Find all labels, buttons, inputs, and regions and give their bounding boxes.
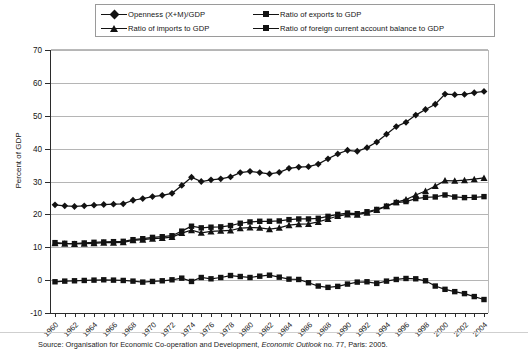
data-point	[257, 219, 262, 224]
x-axis-tick	[474, 313, 475, 317]
data-point	[277, 218, 282, 223]
x-axis-tick	[250, 313, 251, 317]
data-point	[432, 183, 439, 190]
x-axis-tick	[279, 313, 280, 317]
legend-label-balance: Ratio of foreign current account balance…	[280, 24, 444, 33]
data-point	[462, 195, 467, 200]
data-point	[276, 169, 283, 176]
data-point	[296, 277, 301, 282]
data-point	[199, 275, 204, 280]
x-axis-tick	[65, 313, 66, 317]
x-axis-tick	[153, 313, 154, 317]
x-axis-tick	[318, 313, 319, 317]
source-suffix: no. 77, Paris: 2005.	[321, 340, 387, 349]
data-point	[110, 201, 117, 208]
data-point	[277, 274, 282, 279]
data-point	[52, 201, 59, 208]
data-point	[354, 148, 361, 155]
data-point	[335, 284, 340, 289]
data-point	[247, 219, 252, 224]
data-point	[286, 165, 293, 172]
legend-entry-imports: Ratio of imports to GDP	[100, 21, 252, 35]
data-point	[247, 168, 254, 175]
data-point	[228, 273, 233, 278]
data-point	[247, 275, 252, 280]
x-axis-tick	[55, 313, 56, 317]
x-axis-tick	[484, 313, 485, 317]
data-point	[452, 194, 457, 199]
y-axis-tick-label: 60	[33, 78, 42, 87]
x-axis-tick	[406, 313, 407, 317]
data-point	[256, 169, 263, 176]
x-axis-tick	[104, 313, 105, 317]
square-marker-icon	[252, 22, 280, 34]
x-axis-tick	[192, 313, 193, 317]
data-point	[62, 278, 67, 283]
data-point	[179, 275, 184, 280]
data-point	[111, 277, 116, 282]
data-point	[423, 278, 428, 283]
x-axis-tick	[367, 313, 368, 317]
data-point	[139, 195, 146, 202]
data-point	[384, 278, 389, 283]
x-axis-tick	[396, 313, 397, 317]
series-4	[52, 272, 486, 302]
x-axis-tick	[357, 313, 358, 317]
data-point	[422, 188, 429, 195]
data-point	[217, 175, 224, 182]
data-point	[81, 202, 88, 209]
data-point	[452, 289, 457, 294]
x-axis-tick	[426, 313, 427, 317]
series-2	[52, 192, 486, 246]
source-italic-title: Economic Outlook	[261, 340, 321, 349]
source-note: Source: Organisation for Economic Co-ope…	[38, 340, 388, 349]
data-point	[462, 291, 467, 296]
footer-divider	[0, 332, 528, 333]
data-point	[130, 278, 135, 283]
data-point	[471, 89, 478, 96]
x-axis-tick	[211, 313, 212, 317]
x-axis-tick	[133, 313, 134, 317]
data-point	[442, 287, 447, 292]
data-point	[189, 279, 194, 284]
data-point	[198, 178, 205, 185]
x-axis-tick	[455, 313, 456, 317]
data-point	[412, 191, 419, 198]
data-point	[72, 278, 77, 283]
x-axis-tick	[289, 313, 290, 317]
y-axis-tick-label: -10	[30, 309, 42, 318]
data-point	[266, 171, 273, 178]
legend-entry-openness: Openness (X+M)/GDP	[100, 7, 252, 21]
triangle-marker-icon	[100, 22, 128, 34]
legend-entry-exports: Ratio of exports to GDP	[252, 7, 361, 21]
series-1	[52, 88, 488, 210]
data-point	[91, 202, 98, 209]
y-axis-tick-label: 30	[33, 177, 42, 186]
x-axis-tick	[182, 313, 183, 317]
data-point	[150, 279, 155, 284]
data-point	[344, 147, 351, 154]
data-point	[334, 150, 341, 157]
data-point	[140, 279, 145, 284]
data-point	[315, 161, 322, 168]
x-axis-tick	[172, 313, 173, 317]
data-point	[295, 164, 302, 171]
legend-label-exports: Ratio of exports to GDP	[280, 10, 361, 19]
data-point	[101, 277, 106, 282]
series-line	[55, 178, 484, 244]
data-point	[208, 176, 215, 183]
data-point	[472, 294, 477, 299]
x-axis-tick	[270, 313, 271, 317]
data-point	[130, 197, 137, 204]
data-point	[100, 201, 107, 208]
data-point	[413, 276, 418, 281]
data-point	[403, 276, 408, 281]
chart-legend: Openness (X+M)/GDP Ratio of exports to G…	[95, 4, 495, 37]
x-axis-tick	[162, 313, 163, 317]
data-point	[364, 279, 369, 284]
data-point	[461, 91, 468, 98]
data-point	[61, 202, 68, 209]
diamond-marker-icon	[100, 8, 128, 20]
x-axis-tick	[84, 313, 85, 317]
data-point	[237, 169, 244, 176]
